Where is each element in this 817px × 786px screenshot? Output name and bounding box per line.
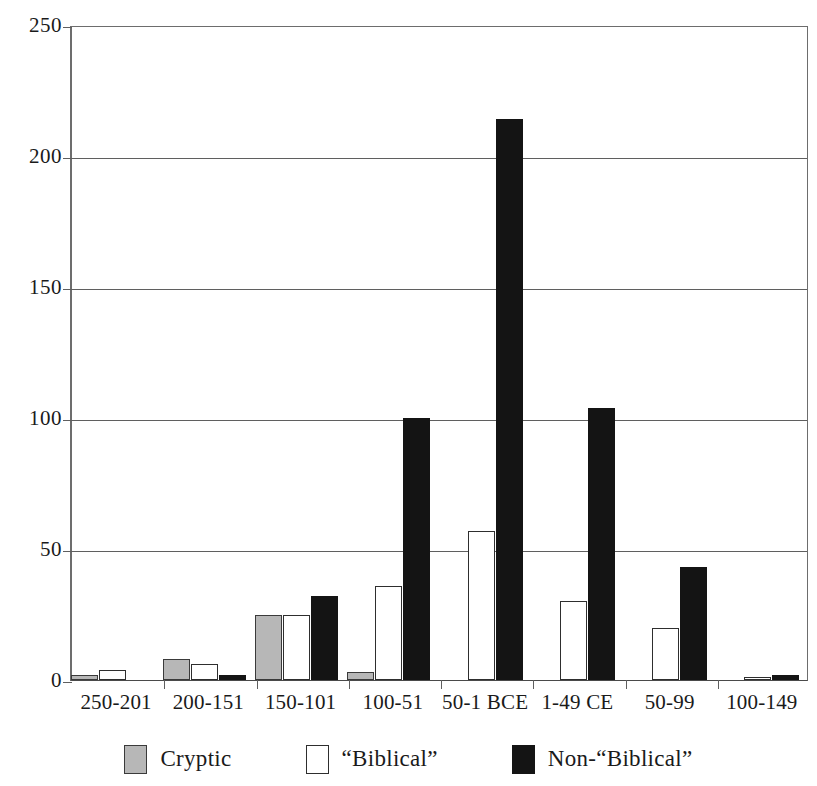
bar bbox=[403, 418, 430, 680]
bar bbox=[71, 675, 98, 680]
legend-swatch-cryptic bbox=[124, 745, 147, 774]
x-axis-label: 250-201 bbox=[80, 690, 151, 715]
x-axis-label: 50-99 bbox=[645, 690, 695, 715]
bar bbox=[588, 408, 615, 680]
x-axis-label: 150-101 bbox=[265, 690, 336, 715]
bar-group bbox=[533, 27, 625, 680]
bar bbox=[375, 586, 402, 680]
bar bbox=[744, 677, 771, 680]
legend-label: Cryptic bbox=[160, 746, 231, 772]
plot-area: 050100150200250 bbox=[70, 26, 808, 681]
y-tick-label-0: 0 bbox=[51, 668, 62, 693]
bar bbox=[772, 675, 799, 680]
bar-groups bbox=[72, 27, 807, 680]
x-tick-mark bbox=[626, 680, 627, 689]
bar bbox=[496, 119, 523, 680]
x-tick-mark bbox=[441, 680, 442, 689]
y-tick-label-100: 100 bbox=[29, 406, 62, 431]
bar bbox=[680, 567, 707, 680]
bar bbox=[311, 596, 338, 680]
bar bbox=[191, 664, 218, 680]
x-axis-label: 100-149 bbox=[726, 690, 797, 715]
bar-group bbox=[164, 27, 256, 680]
bar bbox=[255, 615, 282, 681]
bar bbox=[652, 628, 679, 680]
y-tick-mark-0 bbox=[63, 682, 72, 683]
bar bbox=[99, 670, 126, 680]
bar bbox=[560, 601, 587, 680]
bar-group bbox=[441, 27, 533, 680]
x-tick-mark bbox=[349, 680, 350, 689]
y-tick-label-50: 50 bbox=[40, 537, 62, 562]
bar-group bbox=[718, 27, 810, 680]
x-axis-label: 200-151 bbox=[173, 690, 244, 715]
y-tick-mark-100 bbox=[63, 420, 72, 421]
bar bbox=[468, 531, 495, 680]
chart-title bbox=[0, 0, 817, 3]
bar-group bbox=[349, 27, 441, 680]
legend-label: Non-“Biblical” bbox=[548, 746, 693, 772]
y-tick-label-150: 150 bbox=[29, 275, 62, 300]
legend-swatch-biblical bbox=[306, 745, 329, 774]
bar bbox=[163, 659, 190, 680]
bar-group bbox=[257, 27, 349, 680]
legend-label: “Biblical” bbox=[342, 746, 438, 772]
x-tick-mark bbox=[533, 680, 534, 689]
y-tick-mark-50 bbox=[63, 551, 72, 552]
y-tick-mark-250 bbox=[63, 27, 72, 28]
chart-legend: Cryptic“Biblical”Non-“Biblical” bbox=[0, 739, 817, 779]
x-tick-mark bbox=[164, 680, 165, 689]
bar bbox=[283, 615, 310, 681]
y-tick-mark-150 bbox=[63, 289, 72, 290]
y-tick-label-250: 250 bbox=[29, 13, 62, 38]
x-axis-label: 1-49 CE bbox=[541, 690, 613, 715]
bar-group bbox=[72, 27, 164, 680]
x-axis-labels: 250-201200-151150-101100-5150-1 BCE1-49 … bbox=[70, 690, 808, 724]
y-tick-mark-200 bbox=[63, 158, 72, 159]
legend-item: Non-“Biblical” bbox=[512, 745, 693, 774]
x-tick-mark bbox=[257, 680, 258, 689]
bar bbox=[347, 672, 374, 680]
x-tick-mark bbox=[718, 680, 719, 689]
x-axis-label: 50-1 BCE bbox=[442, 690, 528, 715]
y-tick-label-200: 200 bbox=[29, 144, 62, 169]
legend-item: “Biblical” bbox=[306, 745, 438, 774]
x-axis-label: 100-51 bbox=[363, 690, 424, 715]
legend-swatch-nonbiblical bbox=[512, 745, 535, 774]
legend-item: Cryptic bbox=[124, 745, 231, 774]
bar-group bbox=[626, 27, 718, 680]
bar bbox=[219, 675, 246, 680]
bar-chart: 050100150200250 250-201200-151150-101100… bbox=[0, 0, 817, 786]
